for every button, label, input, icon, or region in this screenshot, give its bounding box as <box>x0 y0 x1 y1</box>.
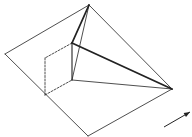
edge-apex-inner_top <box>72 5 89 43</box>
edge-apex-right <box>89 5 172 89</box>
edge-bottom-left <box>5 54 88 136</box>
polyhedron-diagram <box>0 0 192 137</box>
diagram-edges <box>5 5 172 136</box>
edge-right-bottom <box>88 89 172 136</box>
arrow-head-icon <box>184 112 190 117</box>
edge-left-apex <box>5 5 89 54</box>
edge-hidden_bottom-inner_bottom <box>45 80 72 95</box>
edge-inner_top-hidden_top <box>45 43 72 58</box>
direction-arrow-icon <box>164 112 190 127</box>
edge-inner_top-right <box>72 43 172 89</box>
edge-apex-inner_bottom <box>72 5 89 80</box>
